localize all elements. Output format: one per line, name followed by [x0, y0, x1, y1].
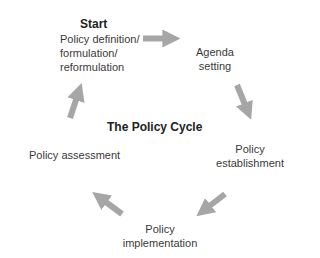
- stage-implementation-line-2: implementation: [120, 236, 200, 250]
- stage-establishment-line-1: Policy: [210, 142, 290, 156]
- stage-agenda-line-1: Agenda: [190, 45, 240, 59]
- stage-assessment: Policy assessment: [29, 148, 120, 162]
- arrow-implementation-to-assessment: [99, 197, 122, 214]
- diagram-title: The Policy Cycle: [107, 120, 202, 134]
- stage-implementation: Policy implementation: [120, 222, 200, 250]
- stage-implementation-line-1: Policy: [120, 222, 200, 236]
- arrow-agenda-to-establishment: [237, 85, 248, 112]
- stage-agenda: Agenda setting: [190, 45, 240, 73]
- stage-formulation: Policy definition/ formulation/ reformul…: [60, 32, 140, 74]
- arrow-establishment-to-implementation: [203, 194, 225, 211]
- stage-establishment: Policy establishment: [210, 142, 290, 170]
- stage-agenda-line-2: setting: [190, 59, 240, 73]
- arrow-assessment-to-formulation: [70, 91, 79, 118]
- stage-establishment-line-2: establishment: [210, 156, 290, 170]
- stage-formulation-line-3: reformulation: [60, 60, 140, 74]
- start-label: Start: [80, 17, 107, 31]
- stage-formulation-line-2: formulation/: [60, 46, 140, 60]
- stage-assessment-line-1: Policy assessment: [29, 148, 120, 162]
- stage-formulation-line-1: Policy definition/: [60, 32, 140, 46]
